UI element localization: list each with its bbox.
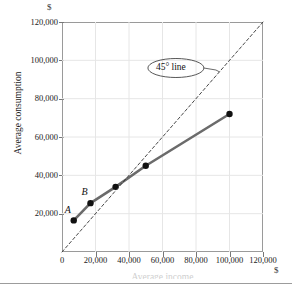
chart-graphics [0, 0, 292, 289]
callout-label: 45° line [156, 62, 186, 72]
chart-figure: $ $ 20,00040,00060,00080,000100,000120,0… [0, 0, 292, 289]
data-point-label-a: A [65, 204, 71, 215]
data-point-label-b: B [81, 186, 87, 197]
bottom-divider [0, 283, 292, 284]
